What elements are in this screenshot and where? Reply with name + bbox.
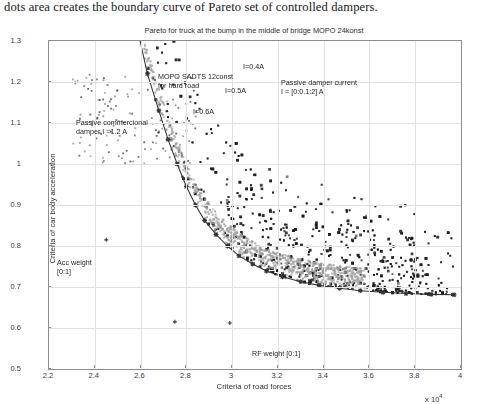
gridline-horizontal [49, 164, 461, 165]
y-tick-mark [48, 327, 51, 328]
x-tick-label: 3 [211, 371, 251, 380]
x-tick-mark [368, 365, 369, 368]
y-tick-mark [48, 368, 51, 369]
x-tick-mark [323, 365, 324, 368]
x-tick-label: 3.8 [394, 371, 434, 380]
y-axis-label: Criteria of car body acceleration [48, 119, 57, 299]
passive-damper-current-label: Passive damper currentI = [0:0.1:2] A [281, 78, 357, 97]
x-tick-mark [94, 365, 95, 368]
plot-area [48, 40, 462, 370]
i-06a-label: I=0.6A [193, 107, 214, 116]
x-tick-label: 3.2 [257, 371, 297, 380]
x-tick-label: 3.6 [348, 371, 388, 380]
gridline-vertical [461, 41, 462, 369]
x-tick-mark [277, 365, 278, 368]
x-tick-mark [185, 365, 186, 368]
x-axis-multiplier: x 104 [425, 393, 442, 404]
figure-caption: dots area creates the boundary curve of … [4, 0, 480, 15]
y-tick-label: 1.2 [0, 77, 21, 86]
y-tick-label: 1.3 [0, 36, 21, 45]
y-tick-mark [48, 81, 51, 82]
y-tick-label: 0.9 [0, 200, 21, 209]
y-tick-label: 1 [0, 159, 21, 168]
acc-weight-label: Acc weight[0:1] [57, 258, 92, 277]
gridline-horizontal [49, 246, 461, 247]
x-axis-label: Criteria of road forces [48, 382, 460, 391]
y-tick-mark [48, 40, 51, 41]
gridline-horizontal [49, 287, 461, 288]
passive-commercional-label: Passive commercionaldamper I =1.2 A [76, 118, 148, 137]
gridline-horizontal [49, 328, 461, 329]
y-tick-label: 0.7 [0, 282, 21, 291]
y-tick-label: 0.8 [0, 241, 21, 250]
chart-title: Pareto for truck at the bump in the midd… [48, 26, 460, 35]
scatter-figure: Pareto for truck at the bump in the midd… [0, 18, 484, 401]
x-tick-mark [231, 365, 232, 368]
mopo-sadts-label: MOPO SADTS 12constfor hard road [158, 72, 233, 91]
x-tick-label: 3.4 [303, 371, 343, 380]
x-tick-mark [460, 365, 461, 368]
x-tick-label: 2.4 [74, 371, 114, 380]
x-tick-label: 4 [440, 371, 480, 380]
x-tick-label: 2.2 [28, 371, 68, 380]
x-tick-mark [414, 365, 415, 368]
gridline-horizontal [49, 82, 461, 83]
i-04a-label: I=0.4A [243, 62, 264, 71]
y-tick-label: 0.5 [0, 364, 21, 373]
gridline-horizontal [49, 205, 461, 206]
y-tick-label: 1.1 [0, 118, 21, 127]
x-tick-label: 2.6 [120, 371, 160, 380]
x-tick-label: 2.8 [165, 371, 205, 380]
y-tick-label: 0.6 [0, 323, 21, 332]
x-tick-mark [140, 365, 141, 368]
rf-weight-label: RF weight [0:1] [252, 349, 300, 358]
